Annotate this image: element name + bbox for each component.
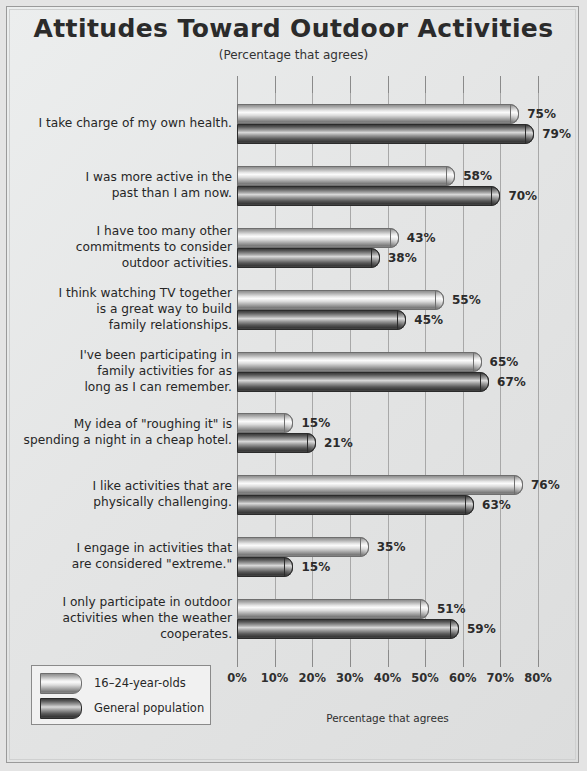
bar-light-5[interactable] [237, 413, 293, 433]
category-label-line: I was more active in the [17, 169, 232, 185]
x-tick-top-30% [350, 76, 351, 93]
category-label-line: I engage in activities that [17, 540, 232, 556]
bar-dark-2[interactable] [237, 248, 380, 268]
x-tick-40% [388, 650, 389, 667]
bar-value-label: 79% [542, 124, 571, 144]
plot-area: 0%10%20%30%40%50%60%70%80%75%79%58%70%43… [237, 93, 538, 650]
bar-light-2[interactable] [237, 228, 399, 248]
bar-dark-6[interactable] [237, 495, 474, 515]
bar-dark-8[interactable] [237, 619, 459, 639]
bar-light-6[interactable] [237, 475, 523, 495]
legend-swatch-light [40, 673, 82, 694]
bar-value-label: 21% [324, 433, 353, 453]
chart-page: Attitudes Toward Outdoor Activities (Per… [0, 0, 587, 771]
bar-dark-3[interactable] [237, 310, 406, 330]
bar-value-label: 75% [527, 104, 556, 124]
bar-light-1[interactable] [237, 166, 455, 186]
bar-value-label: 15% [301, 557, 330, 577]
x-axis-title: Percentage that agrees [237, 712, 538, 724]
x-tick-top-50% [425, 76, 426, 93]
x-tick-top-70% [500, 76, 501, 93]
legend-label: General population [94, 696, 204, 721]
x-tick-top-40% [388, 76, 389, 93]
bar-value-label: 43% [407, 228, 436, 248]
category-label: I have too many othercommitments to cons… [17, 223, 232, 271]
category-label-line: spending a night in a cheap hotel. [17, 432, 232, 448]
bar-value-label: 51% [437, 599, 466, 619]
bar-light-0[interactable] [237, 104, 519, 124]
gridline-80% [538, 93, 539, 650]
legend-label: 16–24-year-olds [94, 671, 186, 696]
category-label: I've been participating infamily activit… [17, 347, 232, 395]
category-label-line: I only participate in outdoor [17, 594, 232, 610]
category-label-line: commitments to consider [17, 239, 232, 255]
x-tick-top-10% [275, 76, 276, 93]
bar-value-label: 45% [414, 310, 443, 330]
category-label-line: I take charge of my own health. [17, 115, 232, 131]
legend-swatch-dark [40, 698, 82, 719]
category-label-line: family relationships. [17, 317, 232, 333]
x-tick-top-80% [538, 76, 539, 93]
category-label-line: physically challenging. [17, 494, 232, 510]
bar-value-label: 38% [388, 248, 417, 268]
category-label: I was more active in thepast than I am n… [17, 169, 232, 201]
x-tick-80% [538, 650, 539, 667]
category-label-line: family activities for as [17, 363, 232, 379]
category-label: I engage in activities thatare considere… [17, 540, 232, 572]
bar-light-4[interactable] [237, 352, 482, 372]
bar-value-label: 55% [452, 290, 481, 310]
category-label-line: I like activities that are [17, 478, 232, 494]
category-label-line: cooperates. [17, 626, 232, 642]
category-label-line: past than I am now. [17, 185, 232, 201]
category-label-line: is a great way to build [17, 301, 232, 317]
bar-light-3[interactable] [237, 290, 444, 310]
bar-dark-4[interactable] [237, 372, 489, 392]
category-label-line: are considered "extreme." [17, 556, 232, 572]
bar-value-label: 59% [467, 619, 496, 639]
bar-value-label: 15% [301, 413, 330, 433]
category-label-line: My idea of "roughing it" is [17, 416, 232, 432]
category-label: I only participate in outdooractivities … [17, 594, 232, 642]
x-tick-10% [275, 650, 276, 667]
bar-value-label: 63% [482, 495, 511, 515]
bar-dark-0[interactable] [237, 124, 534, 144]
x-tick-label: 80% [513, 671, 563, 685]
bar-dark-1[interactable] [237, 186, 500, 206]
bar-light-7[interactable] [237, 537, 369, 557]
x-tick-20% [312, 650, 313, 667]
x-tick-70% [500, 650, 501, 667]
category-label-line: outdoor activities. [17, 255, 232, 271]
x-tick-0% [237, 650, 238, 667]
bar-value-label: 35% [377, 537, 406, 557]
x-tick-50% [425, 650, 426, 667]
category-label-line: I've been participating in [17, 347, 232, 363]
x-tick-30% [350, 650, 351, 667]
x-tick-top-60% [463, 76, 464, 93]
category-label-column: I take charge of my own health.I was mor… [10, 0, 232, 771]
x-tick-top-0% [237, 76, 238, 93]
category-label-line: I have too many other [17, 223, 232, 239]
bar-value-label: 65% [490, 352, 519, 372]
bar-dark-7[interactable] [237, 557, 293, 577]
bar-light-8[interactable] [237, 599, 429, 619]
category-label: My idea of "roughing it" isspending a ni… [17, 416, 232, 448]
bar-value-label: 70% [508, 186, 537, 206]
category-label: I think watching TV togetheris a great w… [17, 285, 232, 333]
category-label-line: I think watching TV together [17, 285, 232, 301]
category-label: I like activities that arephysically cha… [17, 478, 232, 510]
x-tick-top-20% [312, 76, 313, 93]
chart-legend: 16–24-year-oldsGeneral population [31, 665, 211, 725]
bar-value-label: 67% [497, 372, 526, 392]
bar-dark-5[interactable] [237, 433, 316, 453]
bar-value-label: 76% [531, 475, 560, 495]
category-label: I take charge of my own health. [17, 115, 232, 131]
bar-value-label: 58% [463, 166, 492, 186]
category-label-line: activities when the weather [17, 610, 232, 626]
category-label-line: long as I can remember. [17, 379, 232, 395]
x-tick-60% [463, 650, 464, 667]
